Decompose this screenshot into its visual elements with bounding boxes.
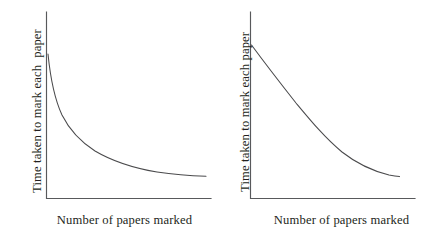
right-chart-x-axis-label: Number of papers marked <box>221 214 442 227</box>
right-chart-plot <box>221 0 442 235</box>
two-panel-figure: Time taken to mark eachpaper Number of p… <box>0 0 442 235</box>
left-chart-axes <box>47 12 212 199</box>
left-chart-y-axis-label: Time taken to mark eachpaper <box>31 29 44 193</box>
left-chart-curve <box>48 54 206 176</box>
right-chart-curve <box>252 45 400 177</box>
left-chart-x-axis-label: Number of papers marked <box>0 214 235 227</box>
chart-panel-left: Time taken to mark eachpaper Number of p… <box>0 0 221 235</box>
right-chart-axes <box>251 12 416 199</box>
left-y-label-text-b: paper <box>30 29 44 58</box>
left-y-label-text-a: Time taken to mark each <box>30 65 44 193</box>
chart-panel-right: Time taken to mark each paper Number of … <box>221 0 442 235</box>
right-chart-y-axis-label: Time taken to mark each paper <box>239 32 252 192</box>
